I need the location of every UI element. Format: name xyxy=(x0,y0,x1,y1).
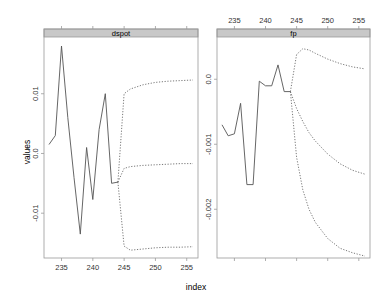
y-tick-label: -0.01 xyxy=(31,205,40,222)
x-tick-label: 250 xyxy=(321,16,334,25)
y-axis-title: values xyxy=(22,140,32,165)
y-tick-label: 0.01 xyxy=(31,86,40,101)
x-tick-label: 235 xyxy=(55,263,68,272)
series-forecast-mean xyxy=(118,164,193,183)
series-forecast-lower xyxy=(118,182,193,250)
y-tick-label: 0.0 xyxy=(31,148,40,158)
lattice-plot: dspot235240245250255-0.010.00.01 fp23524… xyxy=(0,0,389,300)
series-forecast-lower xyxy=(290,92,365,257)
y-tick-label: -0.002 xyxy=(204,199,213,220)
strip-label-dspot: dspot xyxy=(112,29,131,38)
x-tick-label: 240 xyxy=(259,16,272,25)
panel-frame xyxy=(44,29,198,258)
panel-frame xyxy=(217,29,370,258)
x-tick-label: 255 xyxy=(180,263,193,272)
series-observed xyxy=(222,65,290,185)
y-tick-label: 0.0 xyxy=(204,74,213,84)
strip-label-fp: fp xyxy=(290,29,296,38)
x-tick-label: 240 xyxy=(87,263,100,272)
x-axis-title: index xyxy=(186,282,207,292)
x-tick-label: 235 xyxy=(228,16,241,25)
series-forecast-upper xyxy=(290,49,365,92)
x-tick-label: 245 xyxy=(118,263,131,272)
x-tick-label: 255 xyxy=(353,16,366,25)
panel-fp: fp235240245250255-0.002-0.0010.0 xyxy=(204,16,370,261)
panel-dspot: dspot235240245250255-0.010.00.01 xyxy=(31,26,198,272)
series-forecast-mean xyxy=(290,92,365,175)
x-tick-label: 250 xyxy=(149,263,162,272)
x-tick-label: 245 xyxy=(290,16,303,25)
series-observed xyxy=(49,46,118,234)
y-tick-label: -0.001 xyxy=(204,134,213,155)
